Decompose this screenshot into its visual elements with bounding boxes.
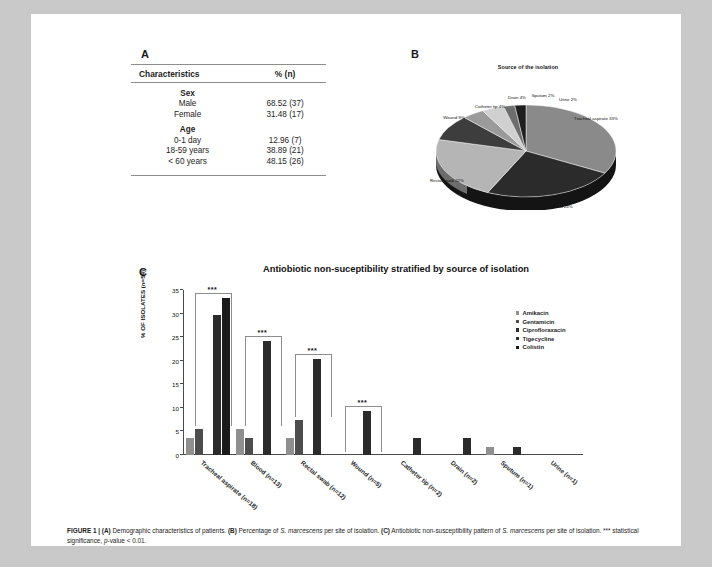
- table-header-row: Characteristics % (n): [131, 65, 326, 83]
- bar-chart-panel: Antiobiotic non-suceptibility stratified…: [131, 264, 651, 514]
- legend-item: Ciprofloraxacin: [516, 327, 566, 333]
- bar-tigecycline: [463, 438, 471, 455]
- table-header-characteristics: Characteristics: [131, 65, 244, 83]
- table-body: SexMale68.52 (37)Female31.48 (17)Age0-1 …: [131, 83, 326, 176]
- table-group-value: [244, 83, 326, 99]
- table-cell-value: 48.15 (26): [244, 156, 326, 166]
- legend-label: Ciprofloraxacin: [522, 327, 565, 333]
- y-tick-label: 10: [172, 404, 179, 411]
- x-tick-label: Sputum (n=1): [500, 459, 535, 490]
- legend-item: Gentamicin: [516, 319, 566, 325]
- caption-b-text-1: Percentage of: [237, 527, 280, 534]
- legend-swatch-icon: [516, 346, 519, 349]
- caption-b-tag: (B): [228, 527, 237, 534]
- bar-amikacin: [186, 438, 194, 455]
- table-header-percent: % (n): [244, 65, 326, 83]
- caption-c-text-3: -value < 0.01.: [108, 537, 147, 544]
- bar-gentamicin: [295, 420, 303, 455]
- pie-label-wound: Wound 9%: [437, 115, 471, 120]
- y-tick-label: 0: [176, 452, 179, 459]
- table-cell-value: 38.89 (21): [244, 146, 326, 156]
- legend-item: Amikacin: [516, 310, 566, 316]
- caption-a-tag: (A): [102, 527, 111, 534]
- legend-label: Gentamicin: [522, 319, 554, 325]
- significance-label: ***: [258, 329, 268, 336]
- table-group-value: [244, 119, 326, 135]
- table-group-title: Sex: [131, 83, 244, 99]
- y-tick-label: 25: [172, 334, 179, 341]
- pie-label-catheter-tip: Catheter tip 4%: [469, 104, 511, 109]
- y-tick-label: 35: [172, 287, 179, 294]
- pie-label-blood: Blood 24%: [539, 204, 585, 209]
- legend-label: Amikacin: [522, 310, 548, 316]
- figure-page: A Characteristics % (n) SexMale68.52 (37…: [31, 14, 681, 546]
- pie-label-rectal-swab: Rectal swab 22%: [423, 178, 471, 183]
- caption-c-italic: S. marcescens: [502, 527, 544, 534]
- y-tick-label: 20: [172, 357, 179, 364]
- pie-label-drain: Drain 4%: [503, 95, 531, 100]
- bar-chart-title: Antiobiotic non-suceptibility stratified…: [161, 264, 631, 274]
- bar-group: [383, 290, 433, 455]
- caption-figure-label: FIGURE 1 |: [67, 527, 100, 534]
- table-cell-label: 18-59 years: [131, 146, 244, 156]
- legend-swatch-icon: [516, 320, 519, 323]
- bar-tigecycline: [513, 447, 521, 455]
- table-group-row: Sex: [131, 83, 326, 99]
- legend-item: Tigecycline: [516, 336, 566, 342]
- significance-label: ***: [208, 286, 218, 293]
- table-cell-label: 0-1 day: [131, 135, 244, 145]
- legend-swatch-icon: [516, 328, 519, 331]
- bar-chart-legend: AmikacinGentamicinCiprofloraxacinTigecyc…: [516, 310, 566, 353]
- table-cell-label: Female: [131, 109, 244, 119]
- significance-label: ***: [308, 347, 318, 354]
- x-tick-label: Tracheal aspirate (n=18): [200, 459, 260, 511]
- caption-b-italic: S. marcescens: [280, 527, 322, 534]
- caption-c-text-1: Antiobiotic non-susceptibility pattern o…: [390, 527, 502, 534]
- demographics-table: Characteristics % (n) SexMale68.52 (37)F…: [131, 64, 326, 176]
- bar-amikacin: [286, 438, 294, 455]
- pie-chart-panel: Source of the isolation Tracheal aspirat…: [403, 64, 653, 219]
- bar-tigecycline: [413, 438, 421, 455]
- legend-swatch-icon: [516, 311, 519, 314]
- x-tick-label: Rectal swab (n=12): [300, 459, 348, 501]
- significance-bracket: [295, 354, 332, 418]
- table-group-row: Age: [131, 119, 326, 135]
- figure-caption: FIGURE 1 | (A) Demographic characteristi…: [67, 526, 661, 545]
- pie-label-sputum: Sputum 2%: [528, 93, 558, 98]
- bar-gentamicin: [245, 438, 253, 455]
- x-tick-label: Blood (n=13): [250, 459, 284, 489]
- pie-chart: Tracheal aspirate 33% Blood 24% Rectal s…: [431, 92, 621, 210]
- bar-group: [433, 290, 483, 455]
- pie-svg: [431, 92, 621, 210]
- table-cell-value: 31.48 (17): [244, 109, 326, 119]
- table-row: < 60 years48.15 (26): [131, 156, 326, 166]
- bar-amikacin: [236, 429, 244, 455]
- significance-label: ***: [358, 399, 368, 406]
- caption-c-tag: (C): [381, 527, 390, 534]
- table-cell-value: 12.96 (7): [244, 135, 326, 145]
- caption-b-text-2: per site of isolation.: [322, 527, 381, 534]
- legend-label: Colistin: [522, 344, 544, 350]
- y-tick-label: 15: [172, 381, 179, 388]
- table-row: 18-59 years38.89 (21): [131, 146, 326, 156]
- significance-bracket: [245, 336, 282, 426]
- significance-bracket: [195, 293, 232, 426]
- x-tick-label: Catheter tip (n=2): [400, 459, 444, 498]
- panel-b-letter: B: [411, 48, 419, 60]
- table-cell-label: Male: [131, 99, 244, 109]
- y-tick-label: 30: [172, 310, 179, 317]
- panel-a-letter: A: [141, 48, 149, 60]
- table: Characteristics % (n) SexMale68.52 (37)F…: [131, 64, 326, 176]
- y-tick-label: 5: [176, 428, 179, 435]
- legend-swatch-icon: [516, 337, 519, 340]
- x-tick-label: Drain (n=2): [450, 459, 480, 486]
- table-cell-value: 68.52 (37): [244, 99, 326, 109]
- legend-label: Tigecycline: [522, 336, 554, 342]
- table-row: Female31.48 (17): [131, 109, 326, 119]
- table-row: 0-1 day12.96 (7): [131, 135, 326, 145]
- bar-amikacin: [486, 447, 494, 455]
- significance-bracket: [345, 406, 382, 452]
- y-axis-label: % OF ISOLATES (n=54): [139, 270, 146, 338]
- caption-a-text: Demographic characteristics of patients.: [111, 527, 228, 534]
- pie-chart-title: Source of the isolation: [403, 64, 653, 70]
